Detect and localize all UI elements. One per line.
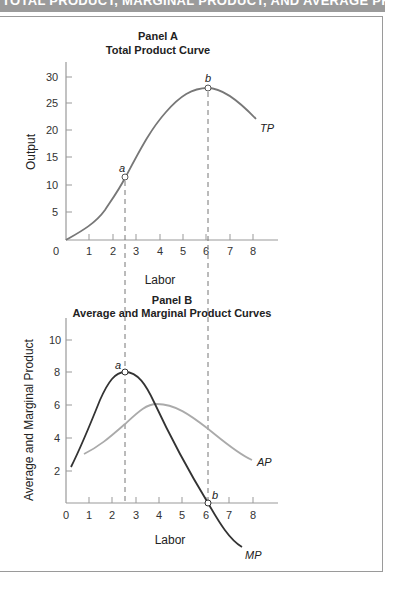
mp-curve-label: MP	[245, 549, 262, 561]
panel-b-x-ticks	[89, 497, 253, 503]
panel-a-title: Total Product Curve	[106, 44, 210, 56]
panel-a-xtick: 5	[180, 245, 186, 257]
panel-a-ytick: 30	[46, 71, 58, 83]
panel-a-xtick: 0	[53, 245, 59, 257]
panel-b-xtick: 7	[226, 509, 232, 521]
panel-a-y-axis-label: Output	[24, 133, 38, 170]
panel-a-ytick: 25	[46, 97, 58, 109]
tp-curve-label: TP	[260, 122, 275, 134]
panel-b-y-axis-label: Average and Marginal Product	[22, 338, 36, 501]
panel-a-xtick: 3	[133, 245, 139, 257]
panel-b-xtick: 0	[63, 509, 69, 521]
tp-curve	[66, 88, 256, 240]
point-b-marker	[205, 85, 211, 91]
panel-b-xtick: 6	[203, 509, 209, 521]
panel-a-xtick: 8	[250, 245, 256, 257]
panel-a-ytick: 10	[46, 179, 58, 191]
panel-b-xtick: 3	[133, 509, 139, 521]
panel-a-xtick: 4	[157, 245, 163, 257]
panel-a-ytick: 5	[52, 206, 58, 218]
panel-a-xtick: 7	[227, 245, 233, 257]
point-b-label: b	[205, 72, 211, 84]
panel-b-ytick: 10	[49, 334, 61, 346]
ap-curve-label: AP	[256, 456, 272, 468]
panel-b-ytick: 4	[54, 432, 60, 444]
panel-b-xtick: 1	[86, 509, 92, 521]
point-a-label: a	[119, 162, 125, 174]
panel-b-xtick: 8	[250, 509, 256, 521]
panel-b-label: Panel B	[152, 294, 192, 306]
panel-a-ytick: 20	[46, 124, 58, 136]
panel-b-ytick: 2	[54, 465, 60, 477]
panel-b-y-ticks	[66, 340, 72, 471]
point-b-label: b	[212, 489, 218, 501]
panel-a-y-ticks	[66, 77, 72, 212]
point-a-marker	[122, 369, 128, 375]
panel-a-x-axis-label: Labor	[145, 273, 176, 287]
panel-b-ytick: 6	[54, 399, 60, 411]
panel-a-x-ticks	[89, 234, 253, 240]
panel-b-xtick: 4	[156, 509, 162, 521]
panel-b: Panel B Average and Marginal Product Cur…	[22, 294, 278, 561]
chart-canvas: Panel A Total Product Curve 30 25 20 15 …	[0, 0, 401, 592]
point-a-marker	[122, 174, 128, 180]
panel-a-xtick: 2	[110, 245, 116, 257]
panel-b-ytick: 8	[54, 366, 60, 378]
panel-a: Panel A Total Product Curve 30 25 20 15 …	[24, 30, 278, 287]
panel-a-label: Panel A	[138, 30, 178, 42]
panel-b-xtick: 5	[179, 509, 185, 521]
point-b-marker	[205, 500, 211, 506]
panel-b-x-axis-label: Labor	[155, 533, 186, 547]
panel-a-xtick: 1	[86, 245, 92, 257]
point-a-label: a	[115, 359, 121, 371]
panel-b-title: Average and Marginal Product Curves	[73, 307, 272, 319]
panel-b-xtick: 2	[109, 509, 115, 521]
panel-a-ytick: 15	[46, 151, 58, 163]
